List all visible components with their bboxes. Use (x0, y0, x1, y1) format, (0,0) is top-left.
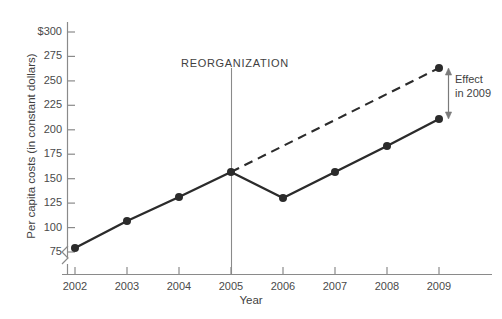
y-tick-label-75: 75 (10, 245, 62, 257)
y-tick-label-300: $300 (10, 25, 62, 37)
projection-trend-line (231, 68, 439, 172)
chart-container: $300 275 250 225 200 175 150 125 100 75 … (0, 0, 502, 319)
x-axis-title: Year (0, 294, 502, 306)
effect-double-arrow (445, 68, 451, 119)
reorganization-label: REORGANIZATION (181, 57, 289, 69)
x-tick-label-2008: 2008 (357, 280, 417, 292)
data-point-2007 (331, 168, 339, 176)
data-point-2004 (175, 193, 183, 201)
effect-label-line1: Effect (455, 72, 491, 86)
data-point-2003 (123, 217, 131, 225)
x-axis-ticks (75, 267, 439, 275)
data-point-2002 (71, 244, 79, 252)
x-tick-label-2007: 2007 (305, 280, 365, 292)
actual-cost-line (75, 119, 439, 248)
x-tick-label-2004: 2004 (149, 280, 209, 292)
x-tick-label-2003: 2003 (97, 280, 157, 292)
line-chart-canvas (0, 0, 502, 319)
data-point-2006 (279, 194, 287, 202)
data-point-2009 (435, 115, 443, 123)
y-axis-title: Per capita costs (in constant dollars) (25, 46, 37, 246)
x-tick-label-2005: 2005 (201, 280, 261, 292)
effect-annotation: Effect in 2009 (455, 72, 491, 100)
actual-cost-data-points (71, 115, 443, 252)
y-axis-ticks (68, 32, 76, 252)
projection-endpoint-2009 (435, 64, 443, 72)
x-tick-label-2002: 2002 (45, 280, 105, 292)
x-tick-label-2006: 2006 (253, 280, 313, 292)
data-point-2005 (227, 168, 235, 176)
effect-label-line2: in 2009 (455, 86, 491, 100)
data-point-2008 (383, 142, 391, 150)
x-tick-label-2009: 2009 (409, 280, 469, 292)
